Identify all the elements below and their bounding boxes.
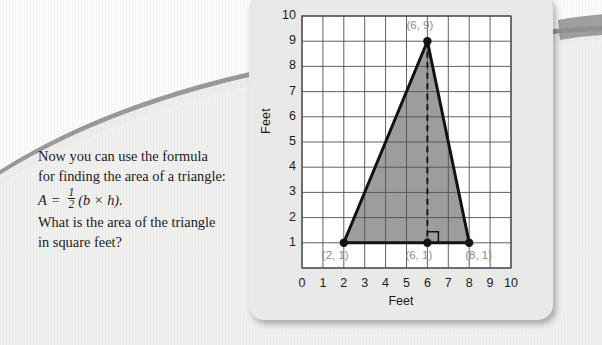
coordinate-plot [249,0,553,320]
label-left-vertex: (2, 1) [322,249,349,261]
area-formula: A = 1 2 (b × h). [38,188,228,212]
lesson-paragraph-1: Now you can use the formula for finding … [38,146,228,187]
formula-equals: = [51,190,61,210]
label-right-vertex: (8, 1) [465,249,492,261]
lesson-paragraph-2: What is the area of the triangle in squa… [38,212,228,253]
fraction-numerator: 1 [68,187,76,199]
formula-fraction: 1 2 [68,187,76,211]
formula-rhs: (b × h). [78,190,122,210]
formula-lhs: A [38,190,47,210]
lesson-text: Now you can use the formula for finding … [38,146,228,253]
fraction-denominator: 2 [68,198,76,211]
label-apex: (6, 9) [406,19,433,31]
chart-card-inner: Feet Feet 12345678910 012345678910 (6, 9… [249,0,553,320]
chart-card: Feet Feet 12345678910 012345678910 (6, 9… [249,0,553,320]
label-height-foot: (6, 1) [405,249,432,261]
